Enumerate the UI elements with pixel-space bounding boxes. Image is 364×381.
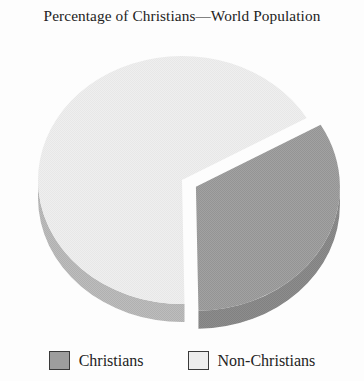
legend-label-non-christians: Non-Christians — [218, 353, 316, 369]
pie-chart-plot-area — [0, 34, 364, 340]
chart-legend: Christians Non-Christians — [0, 344, 364, 377]
legend-item-christians[interactable]: Christians — [49, 351, 144, 370]
pie-chart-svg — [0, 34, 364, 340]
legend-swatch-non-christians — [188, 351, 209, 370]
legend-swatch-christians — [49, 351, 70, 370]
pie-chart-figure: Percentage of Christians—World Populatio… — [0, 0, 364, 381]
page-title: Percentage of Christians—World Populatio… — [0, 7, 364, 25]
legend-label-christians: Christians — [79, 353, 144, 369]
legend-item-non-christians[interactable]: Non-Christians — [188, 351, 316, 370]
